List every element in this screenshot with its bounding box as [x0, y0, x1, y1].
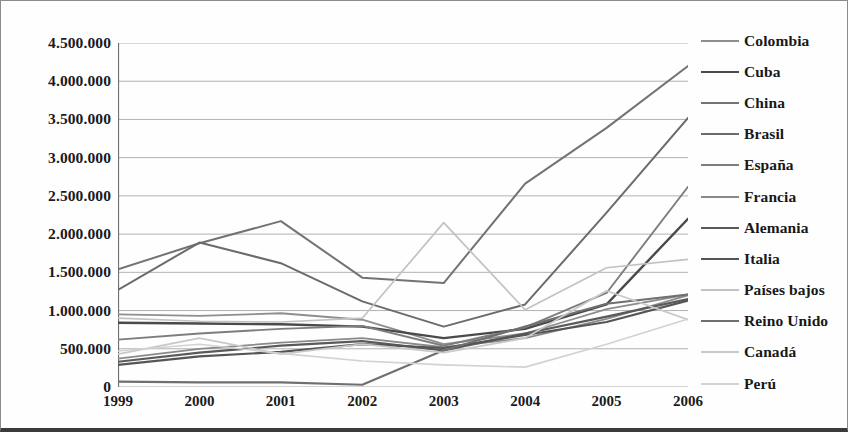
legend-label: Canadá	[744, 343, 796, 361]
line-chart-svg	[118, 43, 688, 387]
legend-line-swatch-icon	[701, 320, 739, 322]
legend-label: España	[744, 156, 794, 174]
y-tick-label: 4.000.000	[1, 72, 111, 90]
plot-area	[118, 43, 688, 387]
x-tick-label: 1999	[103, 393, 133, 410]
legend-label: Reino Unido	[744, 312, 828, 330]
chart-legend: ColombiaCubaChinaBrasilEspañaFranciaAlem…	[701, 25, 843, 399]
y-tick-label: 500.000	[1, 340, 111, 358]
legend-line-swatch-icon	[701, 133, 739, 135]
legend-label: China	[744, 94, 785, 112]
x-axis: 19992000200120022003200420052006	[118, 393, 688, 421]
y-tick-label: 3.000.000	[1, 149, 111, 167]
legend-item-francia[interactable]: Francia	[701, 181, 843, 212]
legend-line-swatch-icon	[701, 383, 739, 385]
chart-page: 0500.0001.000.0001.500.0002.000.0002.500…	[0, 0, 848, 432]
y-tick-label: 1.000.000	[1, 302, 111, 320]
legend-item-países-bajos[interactable]: Países bajos	[701, 275, 843, 306]
legend-line-swatch-icon	[701, 71, 739, 73]
legend-item-italia[interactable]: Italia	[701, 243, 843, 274]
y-tick-label: 1.500.000	[1, 263, 111, 281]
legend-line-swatch-icon	[701, 227, 739, 229]
x-tick-label: 2004	[510, 393, 540, 410]
y-axis: 0500.0001.000.0001.500.0002.000.0002.500…	[1, 1, 111, 432]
legend-item-reino-unido[interactable]: Reino Unido	[701, 306, 843, 337]
series-line-china	[118, 66, 688, 283]
legend-item-canadá[interactable]: Canadá	[701, 337, 843, 368]
legend-item-alemania[interactable]: Alemania	[701, 212, 843, 243]
legend-label: Países bajos	[744, 281, 825, 299]
x-tick-label: 2001	[266, 393, 296, 410]
legend-line-swatch-icon	[701, 40, 739, 42]
x-tick-label: 2006	[673, 393, 703, 410]
y-tick-label: 3.500.000	[1, 110, 111, 128]
legend-label: Colombia	[744, 32, 809, 50]
legend-line-swatch-icon	[701, 196, 739, 198]
y-tick-label: 0	[1, 378, 111, 396]
legend-label: Brasil	[744, 125, 784, 143]
legend-line-swatch-icon	[701, 102, 739, 104]
legend-label: Perú	[744, 375, 776, 393]
y-tick-label: 4.500.000	[1, 34, 111, 52]
x-tick-label: 2005	[592, 393, 622, 410]
legend-line-swatch-icon	[701, 258, 739, 260]
x-tick-label: 2003	[429, 393, 459, 410]
y-tick-label: 2.000.000	[1, 225, 111, 243]
legend-item-colombia[interactable]: Colombia	[701, 25, 843, 56]
legend-item-perú[interactable]: Perú	[701, 368, 843, 399]
legend-label: Francia	[744, 188, 796, 206]
legend-line-swatch-icon	[701, 351, 739, 353]
series-line-alemania	[118, 299, 688, 362]
legend-label: Cuba	[744, 63, 781, 81]
legend-item-cuba[interactable]: Cuba	[701, 56, 843, 87]
legend-label: Italia	[744, 250, 780, 268]
legend-item-españa[interactable]: España	[701, 150, 843, 181]
legend-item-china[interactable]: China	[701, 87, 843, 118]
legend-line-swatch-icon	[701, 164, 739, 166]
legend-item-brasil[interactable]: Brasil	[701, 119, 843, 150]
legend-line-swatch-icon	[701, 289, 739, 291]
x-tick-label: 2002	[347, 393, 377, 410]
legend-label: Alemania	[744, 219, 809, 237]
y-tick-label: 2.500.000	[1, 187, 111, 205]
x-tick-label: 2000	[184, 393, 214, 410]
